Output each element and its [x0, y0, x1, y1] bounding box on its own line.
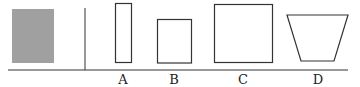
label-a: A: [113, 72, 133, 87]
shape-d-trapezoid: [287, 15, 348, 61]
label-c: C: [233, 72, 253, 87]
shape-a: [116, 4, 132, 63]
label-d: D: [308, 72, 328, 87]
shape-b: [158, 20, 192, 64]
label-b: B: [164, 72, 184, 87]
shape-c: [215, 5, 273, 63]
shaded-reference-rect: [12, 9, 54, 63]
diagram: A B C D: [0, 0, 360, 87]
